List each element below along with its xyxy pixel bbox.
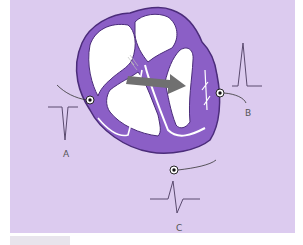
label-b: B bbox=[245, 108, 251, 118]
label-a: A bbox=[63, 149, 70, 159]
electrode-c-dot bbox=[172, 168, 175, 171]
caption-fragment bbox=[10, 236, 70, 245]
electrode-b-dot bbox=[218, 91, 221, 94]
label-c: C bbox=[176, 223, 182, 233]
electrode-a-dot bbox=[88, 98, 91, 101]
heart-diagram: A B C bbox=[10, 0, 295, 233]
diagram-panel: A B C bbox=[10, 0, 295, 233]
